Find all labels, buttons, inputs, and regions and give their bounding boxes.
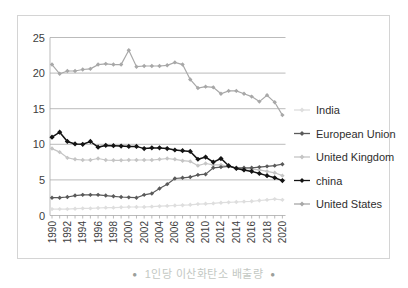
caption-bullet-left: ● [132, 270, 137, 279]
x-tick-label-2000: 2000 [123, 221, 134, 244]
legend-item-united-kingdom: United Kingdom [294, 151, 394, 163]
legend-label-india: India [316, 104, 341, 116]
legend-item-china: china [294, 175, 343, 187]
series-markers-united-states [50, 48, 285, 117]
legend-label-european-union: European Union [316, 128, 396, 140]
x-tick-label-2012: 2012 [215, 221, 226, 244]
y-tick-label-0: 0 [39, 210, 45, 222]
legend-marker-china [300, 178, 305, 183]
legend-item-united-states: United States [294, 198, 383, 210]
legend-marker-european-union [300, 131, 305, 136]
x-tick-label-2004: 2004 [154, 221, 165, 244]
x-tick-label-2018: 2018 [262, 221, 273, 244]
legend-item-india: India [294, 104, 341, 116]
x-tick-label-2002: 2002 [139, 221, 150, 244]
x-tick-label-1992: 1992 [62, 221, 73, 244]
x-tick-label-2010: 2010 [200, 221, 211, 244]
x-tick-label-2016: 2016 [246, 221, 257, 244]
chart-caption: ●1인당 이산화탄소 배출량● [0, 265, 408, 281]
x-tick-label-1990: 1990 [47, 221, 58, 244]
legend-label-united-kingdom: United Kingdom [316, 151, 394, 163]
legend-marker-united-kingdom [300, 155, 305, 160]
caption-bullet-right: ● [270, 270, 275, 279]
y-tick-label-10: 10 [33, 138, 45, 150]
x-tick-label-2014: 2014 [231, 221, 242, 244]
x-tick-label-1996: 1996 [93, 221, 104, 244]
legend-label-china: china [316, 175, 343, 187]
legend-marker-india [300, 108, 305, 113]
x-tick-label-2008: 2008 [185, 221, 196, 244]
y-tick-label-20: 20 [33, 67, 45, 79]
y-tick-label-25: 25 [33, 32, 45, 44]
y-tick-label-5: 5 [39, 174, 45, 186]
x-tick-label-1994: 1994 [77, 221, 88, 244]
legend-marker-united-states [300, 202, 305, 207]
legend-item-european-union: European Union [294, 128, 396, 140]
co2-line-chart: 0510152025199019921994199619982000200220… [0, 0, 408, 288]
series-markers-india [50, 197, 285, 211]
series-line-united-kingdom [52, 149, 282, 176]
y-tick-label-15: 15 [33, 103, 45, 115]
series-line-united-states [52, 50, 282, 115]
legend-label-united-states: United States [316, 198, 383, 210]
x-tick-label-2006: 2006 [169, 221, 180, 244]
x-tick-label-2020: 2020 [277, 221, 288, 244]
x-tick-label-1998: 1998 [108, 221, 119, 244]
caption-text: 1인당 이산화탄소 배출량 [145, 268, 264, 280]
